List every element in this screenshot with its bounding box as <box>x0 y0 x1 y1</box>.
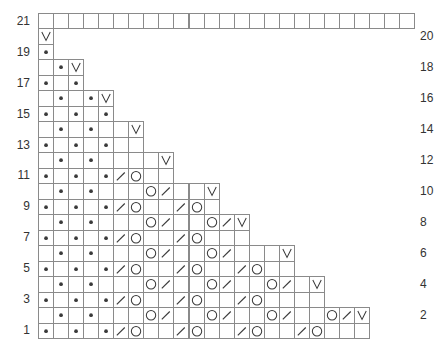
row-label-13: 13 <box>8 138 30 152</box>
chart-cell-r16-c5 <box>98 90 114 106</box>
chart-cell-r9-c7 <box>128 199 144 215</box>
chart-cell-r8-c9 <box>158 214 174 230</box>
chart-cell-r10-c9 <box>158 183 174 199</box>
chart-cell-r21-c21 <box>339 13 355 29</box>
chart-cell-r21-c5 <box>98 13 114 29</box>
row-label-8: 8 <box>420 215 444 229</box>
chart-cell-r5-c17 <box>279 261 295 277</box>
chart-cell-r3-c12 <box>204 292 220 308</box>
chart-cell-r7-c11 <box>189 230 205 246</box>
chart-cell-r15-c5 <box>98 106 114 122</box>
chart-cell-r6-c6 <box>113 245 129 261</box>
chart-cell-r8-c4 <box>83 214 99 230</box>
chart-cell-r21-c17 <box>279 13 295 29</box>
chart-cell-r6-c5 <box>98 245 114 261</box>
chart-cell-r13-c5 <box>98 137 114 153</box>
chart-cell-r2-c5 <box>98 307 114 323</box>
chart-cell-r5-c3 <box>68 261 84 277</box>
chart-cell-r16-c1 <box>38 90 54 106</box>
chart-cell-r15-c1 <box>38 106 54 122</box>
chart-cell-r7-c12 <box>204 230 220 246</box>
chart-cell-r2-c1 <box>38 307 54 323</box>
chart-cell-r5-c4 <box>83 261 99 277</box>
chart-cell-r18-c2 <box>53 59 69 75</box>
chart-cell-r1-c18 <box>294 323 310 339</box>
row-label-1: 1 <box>8 323 30 337</box>
chart-cell-r2-c16 <box>264 307 280 323</box>
chart-cell-r6-c12 <box>204 245 220 261</box>
chart-cell-r9-c3 <box>68 199 84 215</box>
chart-cell-r13-c1 <box>38 137 54 153</box>
chart-cell-r2-c3 <box>68 307 84 323</box>
chart-cell-r1-c16 <box>264 323 280 339</box>
chart-cell-r12-c6 <box>113 152 129 168</box>
chart-cell-r6-c14 <box>234 245 250 261</box>
chart-cell-r7-c10 <box>173 230 189 246</box>
chart-cell-r7-c9 <box>158 230 174 246</box>
chart-cell-r2-c4 <box>83 307 99 323</box>
chart-cell-r4-c3 <box>68 276 84 292</box>
chart-cell-r12-c5 <box>98 152 114 168</box>
chart-cell-r8-c8 <box>143 214 159 230</box>
chart-cell-r14-c3 <box>68 121 84 137</box>
chart-cell-r21-c7 <box>128 13 144 29</box>
chart-cell-r5-c13 <box>219 261 235 277</box>
row-label-5: 5 <box>8 261 30 275</box>
chart-cell-r7-c14 <box>234 230 250 246</box>
chart-cell-r9-c2 <box>53 199 69 215</box>
chart-cell-r2-c10 <box>173 307 189 323</box>
chart-cell-r11-c1 <box>38 168 54 184</box>
chart-cell-r12-c8 <box>143 152 159 168</box>
chart-cell-r2-c22 <box>354 307 370 323</box>
chart-cell-r3-c2 <box>53 292 69 308</box>
chart-cell-r21-c14 <box>234 13 250 29</box>
chart-cell-r10-c7 <box>128 183 144 199</box>
chart-cell-r21-c10 <box>173 13 189 29</box>
chart-cell-r7-c4 <box>83 230 99 246</box>
chart-cell-r21-c6 <box>113 13 129 29</box>
chart-cell-r11-c5 <box>98 168 114 184</box>
chart-cell-r3-c13 <box>219 292 235 308</box>
row-label-10: 10 <box>420 184 444 198</box>
chart-cell-r5-c10 <box>173 261 189 277</box>
chart-cell-r7-c1 <box>38 230 54 246</box>
chart-cell-r3-c8 <box>143 292 159 308</box>
chart-cell-r4-c2 <box>53 276 69 292</box>
chart-cell-r1-c13 <box>219 323 235 339</box>
chart-cell-r5-c15 <box>249 261 265 277</box>
chart-cell-r11-c9 <box>158 168 174 184</box>
chart-cell-r4-c8 <box>143 276 159 292</box>
chart-cell-r9-c9 <box>158 199 174 215</box>
chart-cell-r2-c13 <box>219 307 235 323</box>
chart-cell-r21-c18 <box>294 13 310 29</box>
chart-cell-r6-c7 <box>128 245 144 261</box>
chart-cell-r4-c14 <box>234 276 250 292</box>
chart-cell-r3-c10 <box>173 292 189 308</box>
chart-cell-r11-c2 <box>53 168 69 184</box>
chart-cell-r3-c9 <box>158 292 174 308</box>
row-label-6: 6 <box>420 246 444 260</box>
chart-cell-r14-c2 <box>53 121 69 137</box>
chart-cell-r4-c1 <box>38 276 54 292</box>
chart-cell-r21-c2 <box>53 13 69 29</box>
chart-cell-r10-c8 <box>143 183 159 199</box>
chart-cell-r14-c1 <box>38 121 54 137</box>
chart-cell-r21-c13 <box>219 13 235 29</box>
chart-cell-r7-c13 <box>219 230 235 246</box>
chart-cell-r21-c23 <box>369 13 385 29</box>
chart-cell-r2-c15 <box>249 307 265 323</box>
chart-cell-r18-c1 <box>38 59 54 75</box>
chart-cell-r6-c3 <box>68 245 84 261</box>
chart-cell-r5-c8 <box>143 261 159 277</box>
chart-cell-r6-c13 <box>219 245 235 261</box>
chart-cell-r4-c5 <box>98 276 114 292</box>
chart-cell-r4-c18 <box>294 276 310 292</box>
chart-cell-r2-c12 <box>204 307 220 323</box>
chart-cell-r9-c11 <box>189 199 205 215</box>
chart-cell-r4-c6 <box>113 276 129 292</box>
chart-cell-r4-c17 <box>279 276 295 292</box>
chart-cell-r21-c11 <box>189 13 205 29</box>
chart-cell-r10-c5 <box>98 183 114 199</box>
chart-cell-r1-c11 <box>189 323 205 339</box>
chart-cell-r4-c11 <box>189 276 205 292</box>
